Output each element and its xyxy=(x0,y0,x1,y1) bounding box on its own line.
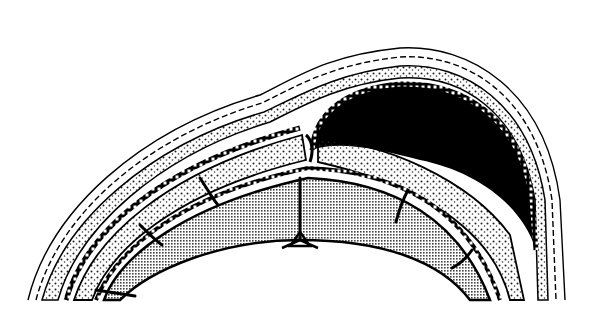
medical-illustration xyxy=(0,0,593,317)
skull-cross-section xyxy=(0,0,593,317)
